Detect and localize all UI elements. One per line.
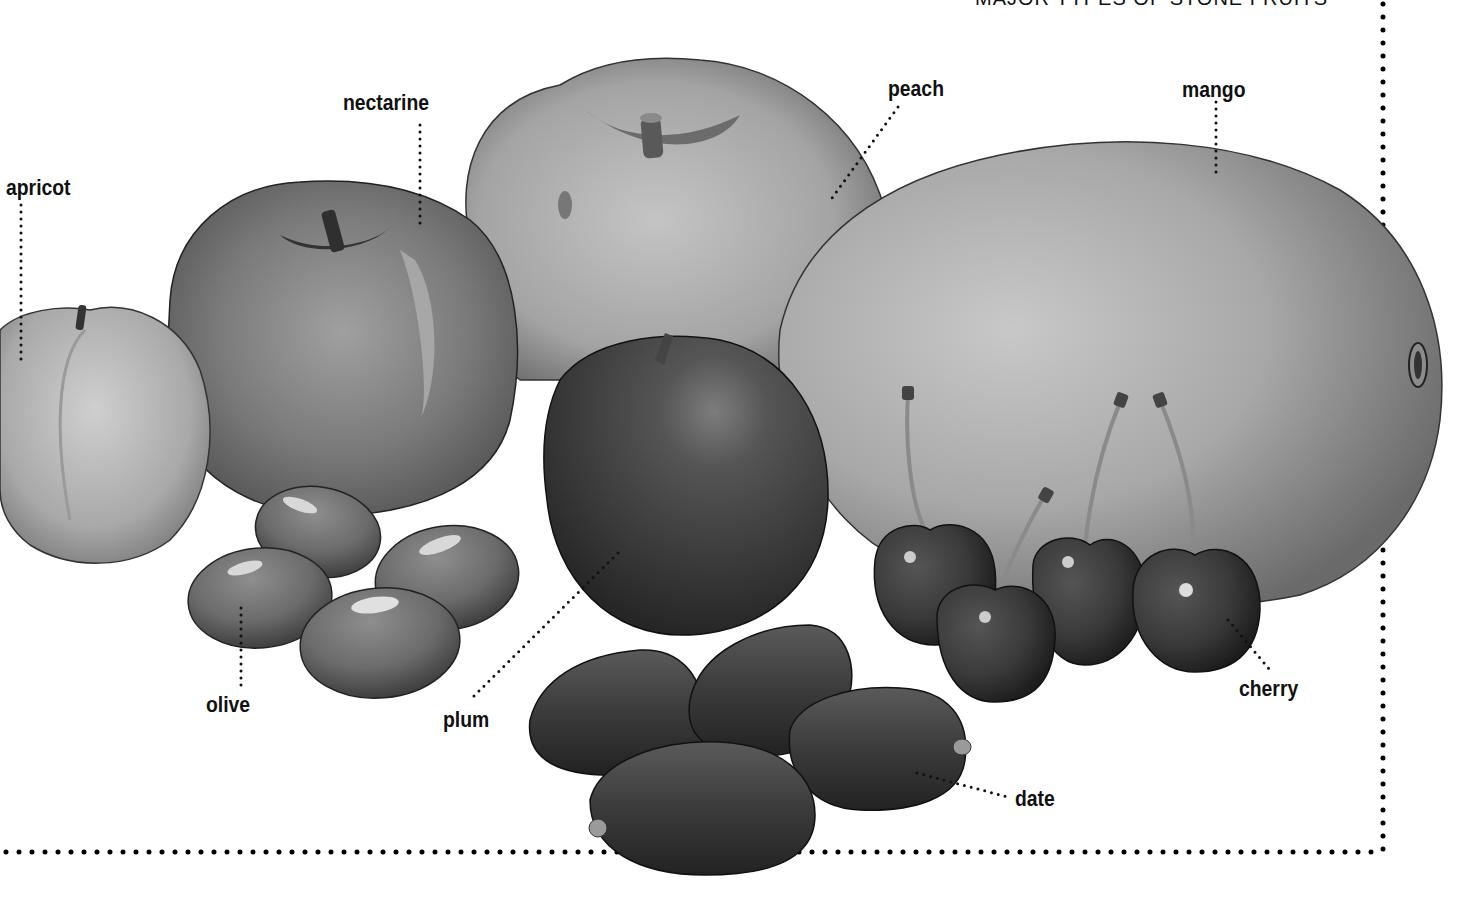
fruit-illustration [0, 0, 1457, 904]
label-plum: plum [443, 707, 489, 733]
label-cherry: cherry [1239, 676, 1298, 702]
mango-illustration [779, 142, 1442, 608]
label-date: date [1015, 786, 1055, 812]
date-illustration [530, 625, 971, 875]
apricot-illustration [0, 305, 210, 564]
plum-illustration [544, 333, 828, 635]
label-peach: peach [888, 76, 944, 102]
stone-fruits-figure: MAJOR TYPES OF STONE FRUITS [0, 0, 1457, 904]
nectarine-illustration [168, 181, 517, 515]
label-olive: olive [206, 692, 250, 718]
label-apricot: apricot [6, 175, 71, 201]
label-nectarine: nectarine [343, 90, 429, 116]
olive-illustration [184, 477, 526, 705]
label-mango: mango [1182, 77, 1245, 103]
